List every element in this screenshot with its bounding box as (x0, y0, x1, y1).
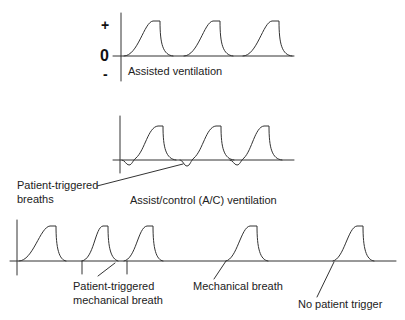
leader-line (214, 261, 226, 279)
breath-waveform (226, 226, 268, 261)
breath-waveform (124, 226, 163, 261)
breath-waveform (124, 21, 173, 56)
axis-label-positive: + (101, 17, 109, 33)
panel-assist-control (97, 116, 294, 186)
annotation-line-2: mechanical breath (73, 293, 163, 307)
breath-waveform (333, 226, 374, 261)
leader-line (98, 263, 115, 276)
axis-label-zero: 0 (100, 47, 109, 65)
breath-waveform (243, 21, 292, 56)
annotation-line-2: breaths (17, 192, 98, 206)
breath-waveform (19, 226, 66, 261)
annotation-patient-triggered-mechanical-breath: Patient-triggered mechanical breath (73, 279, 163, 307)
annotation-line-1: Patient-triggered (17, 178, 98, 192)
annotation-line-1: Patient-triggered (73, 279, 163, 293)
breath-waveform (122, 126, 176, 165)
leader-line (97, 164, 183, 186)
annotation-patient-triggered-breaths: Patient-triggered breaths (17, 178, 98, 206)
breath-waveform (184, 21, 233, 56)
annotation-mechanical-breath: Mechanical breath (193, 279, 283, 293)
caption-assisted-ventilation: Assisted ventilation (128, 64, 222, 78)
breath-waveform (82, 226, 118, 261)
leader-line (317, 262, 334, 297)
axis-label-negative: - (103, 66, 108, 82)
breath-waveform (230, 126, 282, 165)
annotation-no-patient-trigger: No patient trigger (298, 297, 382, 311)
ventilation-waveform-diagram (0, 0, 405, 320)
caption-assist-control: Assist/control (A/C) ventilation (130, 193, 277, 207)
